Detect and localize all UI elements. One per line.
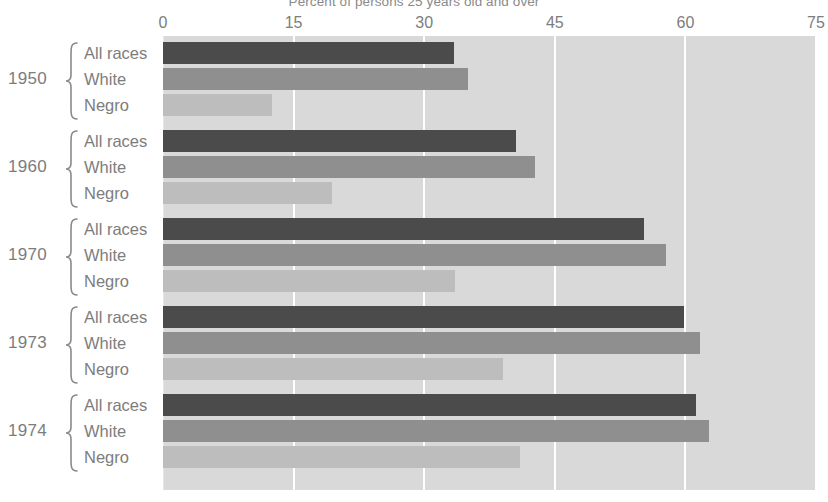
series-labels-1974: All racesWhiteNegro [84, 392, 163, 470]
x-tick-45: 45 [546, 14, 564, 32]
series-label-1974-all-races: All races [84, 392, 163, 418]
category-label-column: 1950All racesWhiteNegro1960All racesWhit… [0, 36, 163, 490]
series-label-1973-all-races: All races [84, 304, 163, 330]
series-label-1970-white: White [84, 242, 163, 268]
year-label-1974: 1974 [8, 421, 47, 441]
series-labels-1950: All racesWhiteNegro [84, 40, 163, 118]
brace-1950 [64, 42, 80, 118]
x-tick-75: 75 [807, 14, 825, 32]
bar-1960-all-races [163, 130, 516, 152]
series-label-1950-white: White [84, 66, 163, 92]
bar-1960-negro [163, 182, 332, 204]
year-group-1970: 1970All racesWhiteNegro [0, 216, 163, 294]
series-labels-1973: All racesWhiteNegro [84, 304, 163, 382]
series-label-1974-white: White [84, 418, 163, 444]
x-tick-15: 15 [285, 14, 303, 32]
series-labels-1970: All racesWhiteNegro [84, 216, 163, 294]
year-label-1960: 1960 [8, 157, 47, 177]
series-label-1950-all-races: All races [84, 40, 163, 66]
year-label-1973: 1973 [8, 333, 47, 353]
chart-container: Percent of persons 25 years old and over… [0, 0, 828, 502]
year-label-1950: 1950 [8, 69, 47, 89]
bar-1974-all-races [163, 394, 696, 416]
year-group-1960: 1960All racesWhiteNegro [0, 128, 163, 206]
series-label-1970-negro: Negro [84, 268, 163, 294]
bar-1970-negro [163, 270, 455, 292]
x-axis-tick-labels: 01530456075 [0, 14, 828, 36]
series-label-1970-all-races: All races [84, 216, 163, 242]
year-label-1970: 1970 [8, 245, 47, 265]
bar-1960-white [163, 156, 535, 178]
bar-1950-all-races [163, 42, 454, 64]
series-label-1960-negro: Negro [84, 180, 163, 206]
x-tick-0: 0 [159, 14, 168, 32]
bar-1973-negro [163, 358, 503, 380]
bar-1950-negro [163, 94, 272, 116]
series-labels-1960: All racesWhiteNegro [84, 128, 163, 206]
series-label-1960-all-races: All races [84, 128, 163, 154]
x-tick-60: 60 [676, 14, 694, 32]
bar-1970-all-races [163, 218, 644, 240]
brace-1960 [64, 130, 80, 206]
chart-title: Percent of persons 25 years old and over [0, 0, 828, 9]
series-label-1950-negro: Negro [84, 92, 163, 118]
gridline-75 [815, 36, 817, 490]
bar-1973-all-races [163, 306, 684, 328]
brace-1974 [64, 394, 80, 470]
bar-1970-white [163, 244, 666, 266]
brace-1970 [64, 218, 80, 294]
brace-1973 [64, 306, 80, 382]
bar-1973-white [163, 332, 700, 354]
series-label-1973-white: White [84, 330, 163, 356]
year-group-1973: 1973All racesWhiteNegro [0, 304, 163, 382]
series-label-1973-negro: Negro [84, 356, 163, 382]
bar-1974-negro [163, 446, 520, 468]
bar-1950-white [163, 68, 468, 90]
series-label-1974-negro: Negro [84, 444, 163, 470]
bar-1974-white [163, 420, 709, 442]
plot-area [163, 36, 816, 490]
year-group-1974: 1974All racesWhiteNegro [0, 392, 163, 470]
x-tick-30: 30 [415, 14, 433, 32]
series-label-1960-white: White [84, 154, 163, 180]
year-group-1950: 1950All racesWhiteNegro [0, 40, 163, 118]
